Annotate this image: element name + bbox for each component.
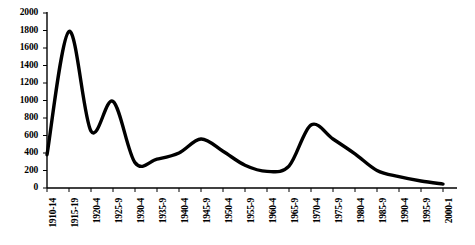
x-axis-tick-label: 1955-9 bbox=[245, 198, 257, 245]
x-axis-tick-label: 1990-4 bbox=[399, 198, 411, 245]
x-axis-tick-label: 1960-4 bbox=[267, 198, 279, 245]
x-axis-tick-label: 1915-19 bbox=[69, 198, 81, 245]
x-axis-tick-label: 1945-9 bbox=[201, 198, 213, 245]
x-axis-tick-label: 1975-9 bbox=[333, 198, 345, 245]
x-axis-tick-label: 2000-1 bbox=[443, 198, 455, 245]
x-axis-tick-label: 1980-4 bbox=[355, 198, 367, 245]
x-axis-tick-label: 1940-4 bbox=[179, 198, 191, 245]
x-axis-tick-label: 1995-9 bbox=[421, 198, 433, 245]
x-axis-tick-label: 1910-14 bbox=[47, 198, 59, 245]
x-axis-tick-label: 1950-4 bbox=[223, 198, 235, 245]
x-axis-tick-label: 1970-4 bbox=[311, 198, 323, 245]
x-axis-tick-labels: 1910-141915-191920-41925-91930-41935-919… bbox=[0, 0, 475, 245]
x-axis-tick-label: 1925-9 bbox=[113, 198, 125, 245]
x-axis-tick-label: 1965-9 bbox=[289, 198, 301, 245]
x-axis-tick-label: 1920-4 bbox=[91, 198, 103, 245]
x-axis-tick-label: 1985-9 bbox=[377, 198, 389, 245]
x-axis-tick-label: 1930-4 bbox=[135, 198, 147, 245]
x-axis-tick-label: 1935-9 bbox=[157, 198, 169, 245]
chart-container: 0200400600800100012001400160018002000 19… bbox=[0, 0, 475, 245]
